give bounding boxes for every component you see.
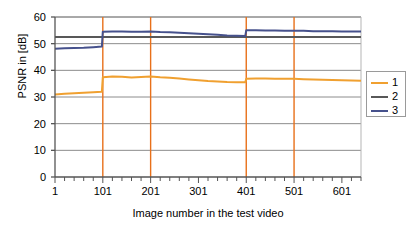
legend-swatch-icon (371, 110, 388, 112)
psnr-line-chart: PSNR in [dB] Image number in the test vi… (0, 0, 412, 231)
legend-swatch-icon (371, 96, 388, 98)
x-axis-title: Image number in the test video (55, 207, 361, 219)
legend-label: 1 (392, 77, 398, 88)
x-tick-label: 501 (274, 186, 314, 197)
x-tick-label: 301 (178, 186, 218, 197)
legend-entry-3: 3 (371, 105, 398, 116)
y-tick-label: 30 (22, 92, 46, 102)
y-tick-label: 0 (22, 172, 46, 182)
x-tick-label: 201 (131, 186, 171, 197)
legend-entry-2: 2 (371, 91, 398, 102)
chart-legend: 123 (366, 71, 406, 117)
x-tick-label: 101 (83, 186, 123, 197)
y-tick-label: 10 (22, 145, 46, 155)
y-tick-label: 20 (22, 119, 46, 129)
legend-entry-1: 1 (371, 77, 398, 88)
legend-label: 2 (392, 91, 398, 102)
y-tick-label: 60 (22, 12, 46, 22)
legend-swatch-icon (371, 82, 388, 84)
x-tick-label: 1 (35, 186, 75, 197)
y-tick-label: 40 (22, 65, 46, 75)
series-line-1 (55, 76, 361, 94)
series-line-3 (55, 30, 361, 48)
y-tick-label: 50 (22, 39, 46, 49)
x-tick-label: 401 (226, 186, 266, 197)
legend-label: 3 (392, 105, 398, 116)
x-tick-label: 601 (322, 186, 362, 197)
